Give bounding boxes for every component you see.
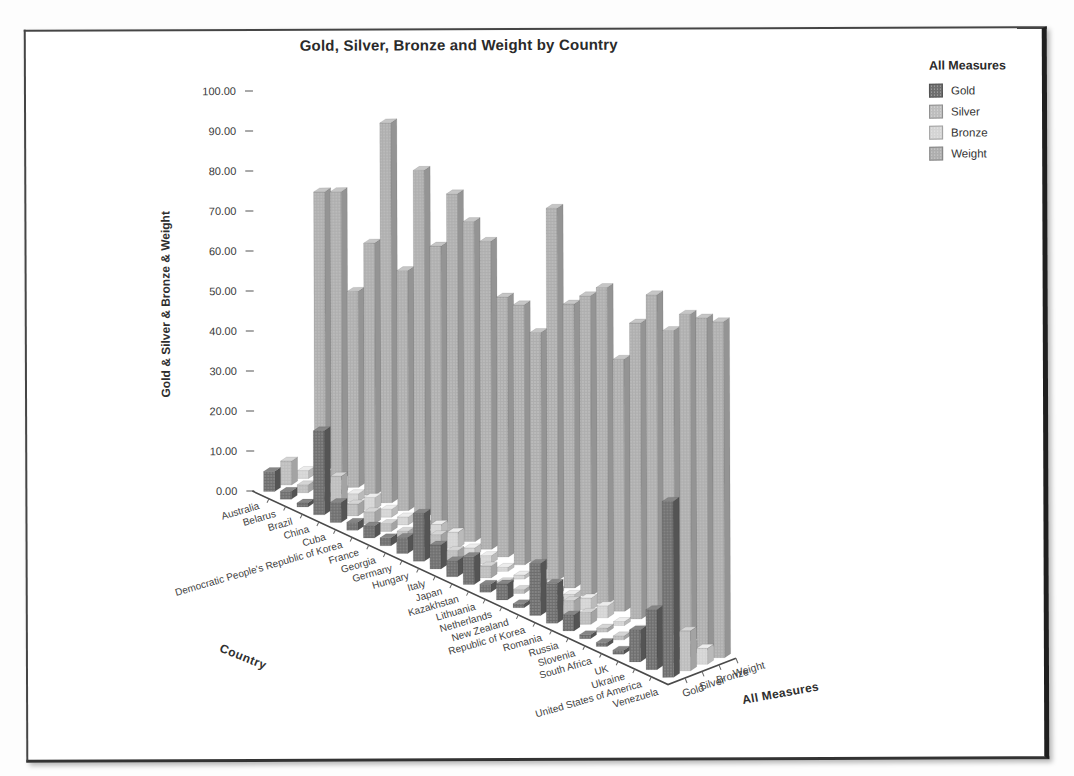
bar-bronze-19	[614, 618, 631, 626]
y-tick-label: 60.00	[209, 245, 237, 257]
x-tick-mark	[333, 530, 335, 534]
bar-gold-10	[430, 541, 447, 569]
bar-silver-24	[680, 627, 697, 671]
bar-weight-7	[430, 242, 448, 526]
bar-weight-16	[580, 292, 598, 596]
bar-weight-23	[696, 314, 714, 650]
bar-bronze-5	[381, 505, 398, 517]
z-tick-mark	[702, 671, 704, 676]
legend-item-gold: Gold	[929, 79, 1059, 100]
bar-bronze-4	[364, 493, 381, 509]
x-tick-mark	[600, 654, 602, 658]
bar-gold-20	[596, 638, 613, 646]
bar-weight-18	[613, 355, 631, 611]
legend-label: Weight	[951, 147, 987, 159]
x-tick-mark	[433, 576, 435, 580]
legend-item-bronze: Bronze	[929, 121, 1059, 142]
x-tick-mark	[267, 499, 269, 503]
z-tick-mark	[685, 678, 687, 683]
y-tick-label: 80.00	[209, 165, 237, 177]
bar-weight-22	[679, 310, 697, 642]
bar-gold-7	[380, 534, 397, 546]
x-tick-mark	[467, 592, 469, 596]
bar-gold-14	[496, 580, 513, 600]
bar-gold-19	[580, 631, 597, 639]
bar-gold-9	[413, 509, 430, 561]
bar-silver-5	[364, 508, 381, 524]
page: 0.0010.0020.0030.0040.0050.0060.0070.008…	[0, 0, 1074, 776]
bar-silver-12	[480, 562, 497, 578]
bar-silver-20	[613, 632, 630, 640]
x-tick-mark	[417, 568, 419, 572]
bar-gold-0	[264, 468, 281, 492]
y-tick-label: 0.00	[216, 485, 237, 497]
y-tick-label: 70.00	[209, 205, 237, 217]
x-tick-mark	[616, 661, 618, 665]
bar-weight-12	[513, 301, 531, 565]
bar-gold-1	[280, 487, 297, 499]
legend-item-weight: Weight	[929, 142, 1059, 163]
bar-gold-4	[330, 499, 347, 523]
legend-swatch	[929, 146, 943, 160]
bar-bronze-0	[298, 466, 315, 478]
bar-gold-11	[446, 557, 463, 577]
bar-silver-0	[281, 457, 298, 485]
bar-gold-12	[463, 552, 480, 584]
y-tick-label: 30.00	[209, 365, 237, 377]
legend-label: Bronze	[951, 126, 987, 138]
legend-items: GoldSilverBronzeWeight	[929, 79, 1059, 163]
bar-bronze-6	[397, 513, 414, 525]
bar-gold-22	[629, 626, 646, 662]
x-tick-mark	[400, 561, 402, 565]
z-tick-mark	[736, 658, 738, 663]
bar-bronze-13	[514, 571, 531, 579]
bar-silver-6	[380, 519, 397, 531]
x-tick-mark	[300, 514, 302, 518]
x-tick-mark	[317, 522, 319, 526]
bar-weight-13	[530, 329, 548, 573]
x-tick-mark	[367, 545, 369, 549]
bar-gold-15	[513, 600, 530, 608]
bar-weight-9	[463, 218, 481, 542]
scanned-figure: 0.0010.0020.0030.0040.0050.0060.0070.008…	[0, 0, 1074, 776]
bar-weight-24	[712, 318, 730, 658]
legend-title: All Measures	[929, 58, 1059, 72]
bar-gold-3	[313, 427, 330, 515]
y-axis-title: Gold & Silver & Bronze & Weight	[158, 194, 173, 414]
bar-weight-11	[497, 293, 515, 557]
y-tick-label: 20.00	[210, 405, 238, 417]
bar-gold-23	[646, 606, 663, 670]
bar-silver-14	[513, 585, 530, 593]
bar-gold-13	[480, 580, 497, 592]
bar-bronze-24	[697, 644, 714, 664]
bar-silver-1	[297, 481, 314, 493]
bar-weight-17	[596, 283, 614, 603]
y-tick-label: 40.00	[209, 325, 237, 337]
bar-weight-6	[413, 166, 431, 518]
y-tick-label: 90.00	[209, 125, 237, 137]
bar-weight-3	[364, 239, 382, 495]
bar-weight-10	[480, 237, 498, 549]
bar-weight-8	[446, 190, 464, 534]
legend-swatch	[929, 83, 943, 97]
x-tick-mark	[383, 553, 385, 557]
bar-gold-17	[546, 579, 563, 623]
x-tick-mark	[500, 607, 502, 611]
x-tick-mark	[583, 646, 585, 650]
bar-bronze-17	[580, 594, 597, 610]
x-tick-mark	[483, 599, 485, 603]
bar-gold-6	[363, 522, 380, 538]
x-tick-mark	[633, 669, 635, 673]
bar-weight-19	[629, 319, 647, 619]
y-tick-label: 10.00	[210, 445, 238, 457]
x-tick-mark	[649, 677, 651, 681]
x-tick-label: Democratic People's Republic of Korea	[174, 539, 344, 598]
y-tick-label: 100.00	[202, 85, 236, 97]
x-tick-mark	[516, 615, 518, 619]
x-tick-mark	[350, 537, 352, 541]
bar-bronze-12	[497, 563, 514, 571]
bar-weight-4	[380, 119, 398, 503]
bar-weight-5	[397, 267, 415, 511]
bar-bronze-18	[597, 602, 614, 618]
bar-gold-24	[662, 497, 680, 677]
